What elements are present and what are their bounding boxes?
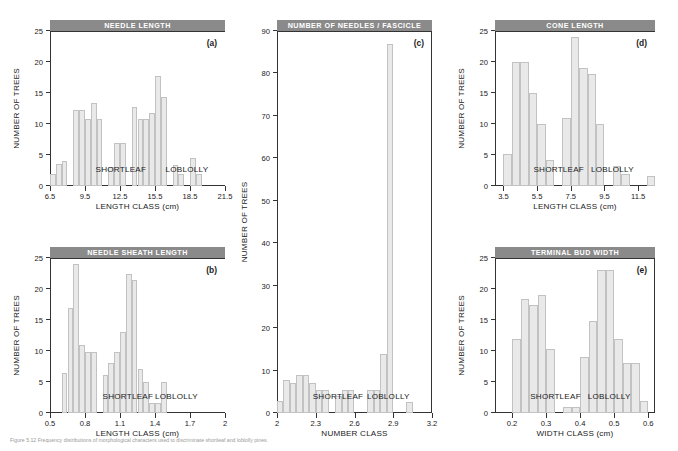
x-tick [648, 413, 649, 418]
bar [640, 401, 649, 413]
x-tick [512, 413, 513, 418]
y-tick [491, 257, 496, 258]
plot-area-e: 05101520250.20.30.40.50.6SHORTLEAFLOBLOL… [495, 258, 655, 413]
annotation-loblolly-e: LOBLOLLY [588, 392, 631, 401]
y-tick [491, 288, 496, 289]
bar-series-e [495, 258, 655, 413]
x-tick-label: 0.4 [575, 419, 586, 428]
bar [546, 349, 555, 413]
panel-e: TERMINAL BUD WIDTH05101520250.20.30.40.5… [0, 0, 678, 451]
annotation-shortleaf-e: SHORTLEAF [530, 392, 581, 401]
x-tick [614, 413, 615, 418]
bar [512, 339, 521, 413]
bar [614, 339, 623, 413]
y-tick-label: 5 [466, 378, 488, 387]
y-tick [491, 350, 496, 351]
x-tick-label: 0.2 [507, 419, 518, 428]
panel-title-e: TERMINAL BUD WIDTH [495, 247, 655, 258]
x-tick-label: 0.5 [609, 419, 620, 428]
bar [580, 357, 589, 413]
y-tick-label: 25 [466, 254, 488, 263]
figure-caption: Figure 5.12 Frequency distributions of m… [10, 437, 670, 443]
bar [563, 407, 572, 413]
bar [521, 299, 530, 413]
x-tick-label: 0.6 [643, 419, 654, 428]
y-tick [491, 412, 496, 413]
y-axis-title-e: NUMBER OF TREES [457, 258, 466, 413]
y-tick [491, 381, 496, 382]
panel-letter-e: (e) [637, 265, 647, 275]
x-tick [546, 413, 547, 418]
bar [631, 363, 640, 413]
x-tick-label: 0.3 [541, 419, 552, 428]
bar [572, 407, 581, 413]
x-tick [580, 413, 581, 418]
y-tick-label: 0 [466, 409, 488, 418]
y-tick-label: 10 [466, 347, 488, 356]
y-tick-label: 20 [466, 285, 488, 294]
y-tick [491, 319, 496, 320]
y-tick-label: 15 [466, 316, 488, 325]
bar [623, 363, 632, 413]
